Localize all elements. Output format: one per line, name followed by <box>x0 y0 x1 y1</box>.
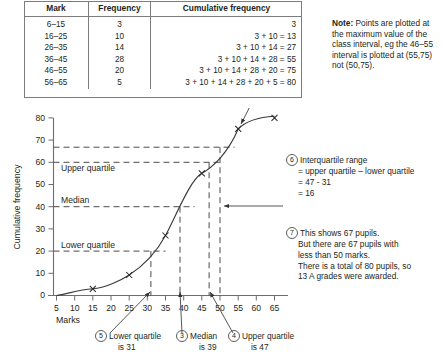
upper-quartile-leader <box>210 292 233 333</box>
data-point-35-27 <box>163 233 169 239</box>
guide-label-median: Median <box>61 195 89 205</box>
callout-lower-quartile-line1: Lower quartile <box>109 331 161 341</box>
x-tick-label: 10 <box>70 303 80 313</box>
callout-upper-quartile-line2: is 47 <box>251 342 318 353</box>
x-tick-label: 60 <box>252 303 262 313</box>
y-tick-label: 10 <box>35 268 45 278</box>
cell-frequency: 20 <box>88 65 150 77</box>
table-row: 36–45 28 3 + 10 + 14 + 28 = 55 <box>24 54 302 66</box>
callout-pupils: 7This shows 67 pupils. But there are 67 … <box>286 227 443 282</box>
chart-data-markers <box>90 115 278 292</box>
column-header-cumulative-frequency: Cumulative frequency <box>151 1 303 17</box>
data-point-25-13 <box>126 272 132 278</box>
x-tick-label: 55 <box>233 303 243 313</box>
table-row: 46–55 20 3 + 10 + 14 + 28 + 20 = 75 <box>24 65 302 77</box>
table-row: 56–65 5 3 + 10 + 14 + 28 + 20 + 5 = 80 <box>24 77 302 89</box>
x-tick-label: 25 <box>124 303 134 313</box>
cell-mark: 46–55 <box>24 65 88 77</box>
column-header-mark: Mark <box>24 1 88 17</box>
y-tick-label: 70 <box>35 135 45 145</box>
cell-mark: 6–15 <box>24 17 88 31</box>
callout-interquartile-range: 6Interquartile range = upper quartile – … <box>286 154 441 198</box>
cell-mark: 26–35 <box>24 42 88 54</box>
y-tick-label: 40 <box>35 202 45 212</box>
cell-cumulative: 3 + 10 + 14 + 28 + 20 = 75 <box>151 65 303 77</box>
y-tick-label: 20 <box>35 246 45 256</box>
callout-number-5: 5 <box>95 330 107 342</box>
callout-upper-quartile: 4Upper quartile is 47 <box>228 330 318 353</box>
x-tick-label: 15 <box>88 303 98 313</box>
callout-pupils-line1: This shows 67 pupils. <box>300 228 379 238</box>
cumulative-frequency-chart: 0 10 20 30 40 50 60 70 80 Cumulative fre… <box>0 108 300 354</box>
y-tick-label: 60 <box>35 157 45 167</box>
table-row: 6–15 3 3 <box>24 17 302 31</box>
callout-iqr-line4: = 16 <box>298 188 441 199</box>
chart-guide-lines-vertical <box>151 147 220 295</box>
x-tick-label: 5 <box>54 303 59 313</box>
data-point-65-80 <box>272 115 278 121</box>
cell-mark: 16–25 <box>24 31 88 43</box>
column-header-frequency: Frequency <box>88 1 150 17</box>
cell-frequency: 10 <box>88 31 150 43</box>
callout-upper-quartile-line1: Upper quartile <box>242 331 294 341</box>
callout-pupils-line5: 13 A grades were awarded. <box>298 271 443 282</box>
cell-mark: 36–45 <box>24 54 88 66</box>
chart-x-ticks <box>57 296 275 301</box>
callout-pupils-line3: less than 50 marks. <box>298 250 443 261</box>
chart-y-ticks <box>49 118 54 296</box>
table-row: 26–35 14 3 + 10 + 14 = 27 <box>24 42 302 54</box>
x-tick-label: 35 <box>161 303 171 313</box>
callout-number-4: 4 <box>228 330 240 342</box>
callout-number-3: 3 <box>176 330 188 342</box>
x-tick-label: 30 <box>143 303 153 313</box>
cell-cumulative: 3 + 10 + 14 = 27 <box>151 42 303 54</box>
y-tick-label: 80 <box>35 113 45 123</box>
cell-mark: 56–65 <box>24 77 88 89</box>
frequency-table: Mark Frequency Cumulative frequency 6–15… <box>24 1 302 89</box>
y-tick-label: 0 <box>40 290 45 300</box>
cell-cumulative: 3 <box>151 17 303 31</box>
cell-frequency: 5 <box>88 77 150 89</box>
data-point-55-75 <box>235 126 241 132</box>
callout-pupils-line4: There is a total of 80 pupils, so <box>298 261 443 272</box>
x-tick-label: 45 <box>197 303 207 313</box>
cell-frequency: 14 <box>88 42 150 54</box>
x-tick-label: 20 <box>106 303 116 313</box>
table-row: 16–25 10 3 + 10 = 13 <box>24 31 302 43</box>
chart-x-tick-labels: 5 10 15 20 25 30 35 40 45 50 55 60 65 <box>54 303 279 313</box>
callout-pupils-line2: But there are 67 pupils with <box>298 239 443 250</box>
x-axis-title: Marks <box>56 315 81 325</box>
guide-label-lower-quartile: Lower quartile <box>61 240 115 250</box>
callout-number-6: 6 <box>286 154 298 166</box>
guide-label-upper-quartile: Upper quartile <box>61 163 115 173</box>
chart-y-tick-labels: 0 10 20 30 40 50 60 70 80 <box>35 113 45 301</box>
cell-frequency: 3 <box>88 17 150 31</box>
cell-cumulative: 3 + 10 + 14 + 28 + 20 + 5 = 80 <box>151 77 303 89</box>
cell-cumulative: 3 + 10 + 14 + 28 = 55 <box>151 54 303 66</box>
callout-iqr-line1: Interquartile range <box>300 155 367 165</box>
y-tick-label: 50 <box>35 179 45 189</box>
callout-iqr-line2: = upper quartile – lower quartile <box>298 166 441 177</box>
cell-cumulative: 3 + 10 = 13 <box>151 31 303 43</box>
callout-iqr-line3: = 47 - 31 <box>298 177 441 188</box>
y-tick-label: 30 <box>35 224 45 234</box>
callout-median-line1: Median <box>190 331 217 341</box>
worksheet-page: Mark Frequency Cumulative frequency 6–15… <box>0 0 443 354</box>
x-tick-label: 65 <box>270 303 280 313</box>
table-header-row: Mark Frequency Cumulative frequency <box>24 1 302 17</box>
callout-number-7: 7 <box>286 227 298 239</box>
data-point-45-55 <box>199 170 205 176</box>
note-text: Note: Points are plotted at the maximum … <box>332 18 440 71</box>
note-label: Note: <box>332 18 353 28</box>
y-axis-title: Cumulative frequency <box>12 164 22 250</box>
cell-frequency: 28 <box>88 54 150 66</box>
